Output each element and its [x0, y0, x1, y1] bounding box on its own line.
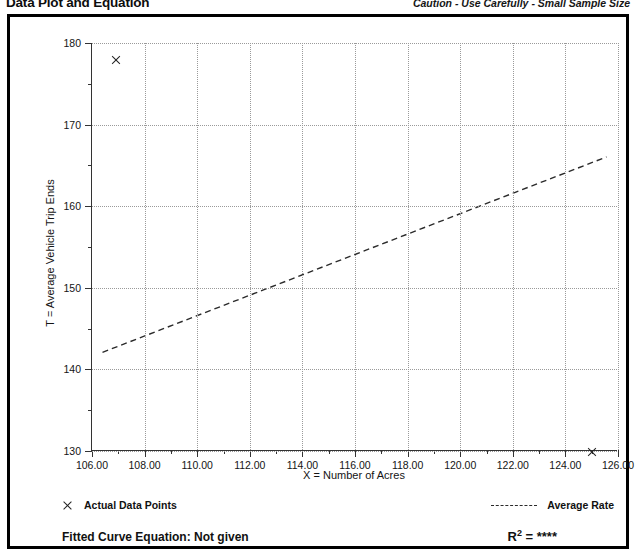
- y-axis-minor-tick: [88, 165, 92, 166]
- x-axis-tick: [618, 450, 619, 457]
- y-axis-tick-label: 150: [63, 282, 81, 294]
- r-squared-number: = ****: [526, 529, 557, 544]
- gridline-vertical: [355, 43, 356, 450]
- y-axis-minor-tick: [88, 84, 92, 85]
- x-marker-icon: [62, 500, 73, 511]
- gridline-vertical: [302, 43, 303, 450]
- gridline-horizontal: [92, 125, 617, 126]
- gridline-vertical: [197, 43, 198, 450]
- gridline-vertical: [250, 43, 251, 450]
- r-squared-value: R2 = ****: [508, 528, 557, 544]
- x-axis-title: X = Number of Acres: [91, 469, 617, 481]
- y-axis-tick-label: 170: [63, 119, 81, 131]
- legend-data-points-label: Actual Data Points: [84, 499, 177, 511]
- fitted-curve-equation: Fitted Curve Equation: Not given: [62, 530, 249, 544]
- y-axis-tick-label: 160: [63, 200, 81, 212]
- y-axis-tick-label: 130: [63, 445, 81, 457]
- y-axis-minor-tick: [88, 410, 92, 411]
- legend: Actual Data Points Average Rate: [10, 499, 632, 525]
- r-squared-exponent: 2: [517, 528, 522, 538]
- y-axis-tick-label: 140: [63, 363, 81, 375]
- caution-note: Caution - Use Carefully - Small Sample S…: [413, 0, 630, 9]
- y-axis-minor-tick: [88, 329, 92, 330]
- page-header: Data Plot and Equation Caution - Use Car…: [0, 0, 638, 14]
- y-axis-title: T = Average Vehicle Trip Ends: [44, 49, 56, 457]
- data-point-marker: [110, 54, 121, 65]
- gridline-horizontal: [92, 43, 617, 44]
- gridline-vertical: [460, 43, 461, 450]
- plot-area: 106.00108.00110.00112.00114.00116.00118.…: [91, 43, 617, 451]
- legend-average-rate-label: Average Rate: [547, 499, 614, 511]
- gridline-vertical: [145, 43, 146, 450]
- gridline-horizontal: [92, 451, 617, 452]
- gridline-vertical: [513, 43, 514, 450]
- y-axis-tick: [85, 451, 92, 452]
- gridline-vertical: [618, 43, 619, 450]
- y-axis-tick: [85, 206, 92, 207]
- chart-frame: T = Average Vehicle Trip Ends 106.00108.…: [7, 14, 629, 549]
- gridline-horizontal: [92, 288, 617, 289]
- r-squared-symbol: R: [508, 529, 517, 544]
- legend-item-data-points: Actual Data Points: [62, 499, 177, 511]
- page-title: Data Plot and Equation: [6, 0, 149, 10]
- plot-container: T = Average Vehicle Trip Ends 106.00108.…: [10, 17, 632, 497]
- y-axis-tick: [85, 369, 92, 370]
- y-axis-tick-label: 180: [63, 37, 81, 49]
- y-axis-tick: [85, 43, 92, 44]
- data-point-marker: [586, 446, 597, 457]
- gridline-horizontal: [92, 206, 617, 207]
- gridline-vertical: [565, 43, 566, 450]
- equation-row: Fitted Curve Equation: Not given R2 = **…: [10, 530, 632, 556]
- y-axis-minor-tick: [88, 247, 92, 248]
- dashed-line-icon: [491, 505, 537, 506]
- legend-item-average-rate: Average Rate: [491, 499, 614, 511]
- y-axis-tick: [85, 125, 92, 126]
- gridline-vertical: [408, 43, 409, 450]
- gridline-horizontal: [92, 369, 617, 370]
- y-axis-tick: [85, 288, 92, 289]
